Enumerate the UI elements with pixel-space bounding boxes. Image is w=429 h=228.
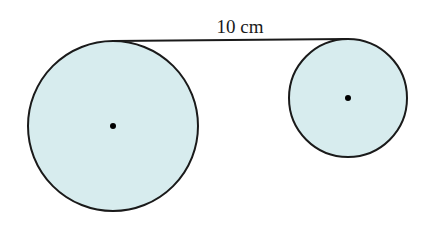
large-circle-center-dot (110, 123, 116, 129)
distance-label: 10 cm (217, 16, 264, 37)
small-circle-center-dot (345, 95, 351, 101)
common-tangent-line (113, 39, 348, 41)
two-circles-diagram: 10 cm (0, 0, 429, 228)
